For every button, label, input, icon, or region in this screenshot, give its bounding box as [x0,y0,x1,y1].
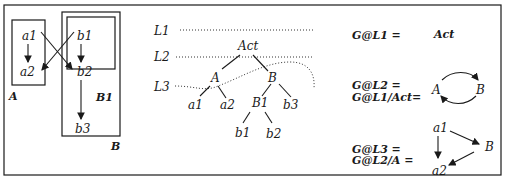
tree-node-b3: b3 [283,98,299,112]
eq3-node-a1: a1 [433,121,448,135]
tree-node-B: B [267,71,277,85]
eq1-lhs: G@L1 = [352,29,401,42]
node-b2: b2 [77,65,92,79]
tree-edge-B1-b1 [243,112,250,123]
tree-node-b2: b2 [266,127,281,141]
edge-b1-a2 [42,32,74,70]
tree-node-act: Act [237,39,258,53]
edge-B-to-A [441,96,476,104]
tree-node-a1: a1 [188,98,203,112]
tree-edge-B-b3 [279,84,291,97]
level-L1: L1 [153,24,170,38]
eq2-lhs-2: G@L1/Act= [352,91,421,104]
label-B: B [110,140,120,153]
node-a1: a1 [22,29,37,43]
eq2-node-A: A [431,83,441,97]
level-L3: L3 [153,80,170,94]
edge-A-to-B [442,73,478,81]
node-b3: b3 [75,122,91,136]
level-line-L3 [175,62,314,89]
diagram-canvas: a1 a2 b1 b2 b3 A B1 B L1 L2 L3 Act A B a… [0,0,507,186]
tree-edge-B-B1 [262,84,271,96]
eq3-node-a2: a2 [432,164,447,178]
node-b1: b1 [77,29,92,43]
tree-node-A: A [210,71,220,85]
left-panel: a1 a2 b1 b2 b3 A B1 B [8,12,120,153]
label-B1: B1 [95,91,113,104]
edge-B-to-a2 [449,152,474,165]
level-L2: L2 [153,50,170,64]
eq1-result: Act [433,28,454,41]
edge-a1-to-B [450,131,479,144]
box-B1 [67,17,115,69]
tree-node-B1: B1 [251,96,268,110]
label-A: A [8,90,18,103]
node-a2: a2 [20,65,35,79]
right-panel: G@L1 = Act G@L2 = G@L1/Act= A B G@L3 = G… [352,28,494,178]
tree-node-b1: b1 [235,126,250,140]
tree-edge-A-a1 [200,86,210,96]
eq3-lhs-2: G@L2/A = [352,154,413,167]
eq2-node-B: B [475,83,485,97]
tree-node-a2: a2 [220,98,235,112]
tree-edge-B1-b2 [265,112,272,123]
eq3-node-B: B [484,140,494,154]
tree-panel: L1 L2 L3 Act A B a1 a2 B1 b3 b1 b2 [153,24,315,141]
tree-edge-A-a2 [218,86,226,98]
